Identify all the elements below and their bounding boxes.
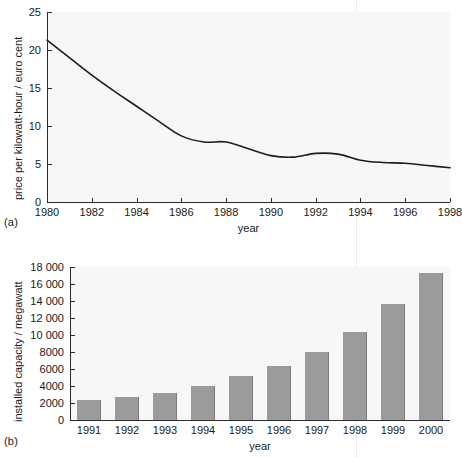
y-tick-label-a: 25 bbox=[3, 6, 41, 18]
price-line-path bbox=[47, 40, 450, 168]
y-tick-mark-b bbox=[71, 352, 75, 353]
x-tick-label-b: 1998 bbox=[343, 424, 367, 436]
y-tick-mark-a bbox=[48, 202, 52, 203]
y-tick-mark-b bbox=[71, 403, 75, 404]
y-tick-label-b: 14 000 bbox=[18, 295, 64, 307]
x-tick-label-a: 1990 bbox=[259, 206, 283, 218]
y-tick-mark-b bbox=[71, 369, 75, 370]
bar bbox=[77, 400, 101, 420]
y-axis-line-a bbox=[47, 12, 48, 203]
x-tick-label-a: 1982 bbox=[80, 206, 104, 218]
bar bbox=[115, 397, 139, 420]
y-tick-mark-b bbox=[71, 284, 75, 285]
panel-a-line-chart: 0510152025 19801982198419861988199019921… bbox=[0, 0, 456, 232]
bar bbox=[153, 393, 177, 420]
y-tick-mark-a bbox=[48, 126, 52, 127]
y-tick-label-b: 0 bbox=[18, 414, 64, 426]
x-tick-label-b: 1999 bbox=[381, 424, 405, 436]
y-tick-mark-b bbox=[71, 335, 75, 336]
x-tick-label-a: 1994 bbox=[348, 206, 372, 218]
x-tick-label-b: 1997 bbox=[305, 424, 329, 436]
y-tick-label-b: 6000 bbox=[18, 363, 64, 375]
x-axis-line-b bbox=[70, 420, 450, 421]
x-tick-label-b: 1992 bbox=[115, 424, 139, 436]
x-axis-title-b: year bbox=[249, 440, 270, 452]
x-axis-line-a bbox=[47, 202, 450, 203]
bar bbox=[419, 273, 443, 420]
y-tick-mark-b bbox=[71, 420, 75, 421]
y-tick-mark-b bbox=[71, 267, 75, 268]
y-tick-label-b: 12 000 bbox=[18, 312, 64, 324]
x-tick-label-a: 1988 bbox=[214, 206, 238, 218]
bar bbox=[229, 376, 253, 420]
x-tick-mark-a bbox=[181, 198, 182, 202]
y-tick-label-b: 2000 bbox=[18, 397, 64, 409]
bar bbox=[343, 332, 367, 420]
x-tick-label-b: 1991 bbox=[77, 424, 101, 436]
price-line-series bbox=[0, 0, 456, 232]
x-tick-label-a: 1986 bbox=[169, 206, 193, 218]
y-tick-label-b: 18 000 bbox=[18, 261, 64, 273]
x-tick-label-b: 1993 bbox=[153, 424, 177, 436]
y-axis-title-b: installed capacity / megawatt bbox=[12, 281, 24, 422]
x-tick-mark-a bbox=[226, 198, 227, 202]
y-tick-label-b: 8000 bbox=[18, 346, 64, 358]
bar bbox=[305, 352, 329, 420]
panel-label-a: (a) bbox=[4, 216, 18, 228]
y-axis-line-b bbox=[70, 267, 71, 421]
y-tick-mark-a bbox=[48, 12, 52, 13]
x-tick-label-b: 1994 bbox=[191, 424, 215, 436]
y-tick-mark-b bbox=[71, 318, 75, 319]
y-tick-mark-b bbox=[71, 301, 75, 302]
bar bbox=[381, 304, 405, 420]
x-tick-mark-a bbox=[316, 198, 317, 202]
x-tick-mark-a bbox=[405, 198, 406, 202]
x-tick-label-a: 1984 bbox=[124, 206, 148, 218]
bar bbox=[267, 366, 291, 420]
y-axis-title-a: price per kilowatt-hour / euro cent bbox=[12, 37, 24, 200]
x-tick-mark-a bbox=[47, 198, 48, 202]
x-tick-mark-a bbox=[92, 198, 93, 202]
y-tick-mark-a bbox=[48, 88, 52, 89]
x-tick-label-a: 1992 bbox=[303, 206, 327, 218]
x-tick-label-b: 1996 bbox=[267, 424, 291, 436]
x-tick-mark-a bbox=[271, 198, 272, 202]
bar bbox=[191, 386, 215, 420]
x-tick-mark-a bbox=[137, 198, 138, 202]
x-tick-mark-a bbox=[360, 198, 361, 202]
y-tick-label-b: 10 000 bbox=[18, 329, 64, 341]
x-tick-label-b: 2000 bbox=[419, 424, 443, 436]
panel-label-b: (b) bbox=[4, 435, 18, 447]
x-tick-label-a: 1980 bbox=[35, 206, 59, 218]
x-tick-label-a: 1998 bbox=[438, 206, 462, 218]
x-tick-mark-a bbox=[450, 198, 451, 202]
y-tick-mark-a bbox=[48, 50, 52, 51]
x-tick-label-b: 1995 bbox=[229, 424, 253, 436]
y-tick-mark-a bbox=[48, 164, 52, 165]
panel-b-bar-chart: 0200040006000800010 00012 00014 00016 00… bbox=[0, 232, 456, 458]
y-tick-label-b: 16 000 bbox=[18, 278, 64, 290]
y-tick-mark-b bbox=[71, 386, 75, 387]
y-tick-label-b: 4000 bbox=[18, 380, 64, 392]
x-tick-label-a: 1996 bbox=[393, 206, 417, 218]
